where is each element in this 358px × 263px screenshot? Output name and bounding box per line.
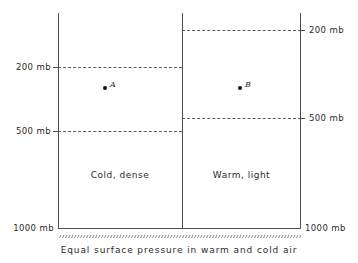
- tick-warm-500mb: [300, 118, 305, 119]
- label-warm-500mb: 500 mb: [309, 114, 344, 123]
- isobar-warm-200mb: [182, 30, 301, 31]
- label-cold-200mb: 200 mb: [0, 63, 51, 72]
- isobar-warm-500mb: [182, 118, 301, 119]
- label-cold-1000mb: 1000 mb: [0, 224, 54, 233]
- center-divider-line: [182, 13, 183, 229]
- tick-cold-200mb: [53, 67, 58, 68]
- label-warm-1000mb: 1000 mb: [305, 224, 346, 233]
- left-boundary-line: [58, 13, 59, 229]
- ground-hatch-icon: [58, 235, 301, 238]
- data-point-a-label: A: [110, 81, 116, 89]
- zone-label-cold: Cold, dense: [58, 171, 182, 180]
- data-point-b-label: B: [245, 81, 251, 89]
- tick-warm-200mb: [300, 30, 305, 31]
- label-cold-500mb: 500 mb: [0, 127, 51, 136]
- zone-label-warm: Warm, light: [182, 171, 301, 180]
- isobar-cold-500mb: [58, 131, 182, 132]
- isobar-cold-200mb: [58, 67, 182, 68]
- data-point-b-dot: [238, 86, 242, 90]
- data-point-a-dot: [103, 86, 107, 90]
- figure-caption: Equal surface pressure in warm and cold …: [0, 246, 358, 255]
- right-boundary-line: [300, 13, 301, 229]
- tick-cold-500mb: [53, 131, 58, 132]
- pressure-column-diagram: 200 mb 500 mb 1000 mb 200 mb 500 mb 1000…: [0, 0, 358, 263]
- ground-hatching: [58, 229, 301, 238]
- label-warm-200mb: 200 mb: [309, 26, 344, 35]
